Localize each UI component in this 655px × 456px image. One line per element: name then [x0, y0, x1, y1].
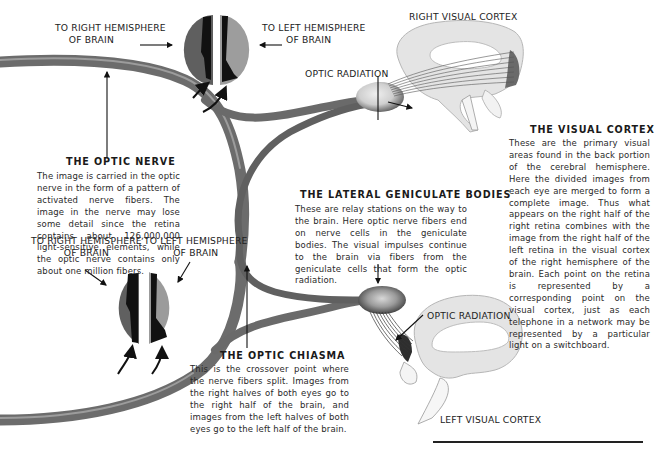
optic-chiasma-text: This is the crossover point where the ne… [190, 364, 349, 435]
lateral-geniculate-text: These are relay stations on the way to t… [295, 204, 467, 287]
label-line: TO LEFT HEMISPHERE [262, 22, 366, 34]
optic-radiation-bottom-label: OPTIC RADIATION [427, 310, 511, 322]
right-brain-illustration [388, 20, 523, 132]
optic-radiation-top-label: OPTIC RADIATION [305, 68, 389, 80]
label-line: OF BRAIN [262, 34, 366, 46]
top-eye-right-hemisphere-label: TO RIGHT HEMISPHERE OF BRAIN [55, 22, 166, 46]
label-line: OF BRAIN [55, 34, 166, 46]
lateral-geniculate-bottom [358, 286, 406, 314]
bottom-retina [119, 272, 170, 344]
label-line: TO RIGHT HEMISPHERE [55, 22, 166, 34]
optic-nerve-text: The image is carried in the optic nerve … [37, 171, 180, 278]
footer-rule [433, 441, 643, 443]
right-visual-cortex-label: RIGHT VISUAL CORTEX [409, 11, 517, 23]
optic-nerve-title: THE OPTIC NERVE [66, 156, 176, 167]
lateral-geniculate-title: THE LATERAL GENICULATE BODIES [300, 189, 511, 200]
visual-cortex-text: These are the primary visual areas found… [509, 138, 650, 352]
top-retina [184, 15, 249, 85]
lateral-geniculate-top [356, 82, 404, 112]
top-eye-left-hemisphere-label: TO LEFT HEMISPHERE OF BRAIN [262, 22, 366, 46]
left-visual-cortex-label: LEFT VISUAL CORTEX [440, 414, 541, 426]
optic-chiasma-title: THE OPTIC CHIASMA [220, 350, 345, 361]
visual-cortex-title: THE VISUAL CORTEX [530, 124, 655, 135]
